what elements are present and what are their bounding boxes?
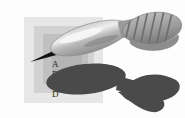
- dart-object: [0, 0, 185, 118]
- dart-barrel: [47, 13, 134, 64]
- figure-canvas: A B C D: [0, 0, 185, 118]
